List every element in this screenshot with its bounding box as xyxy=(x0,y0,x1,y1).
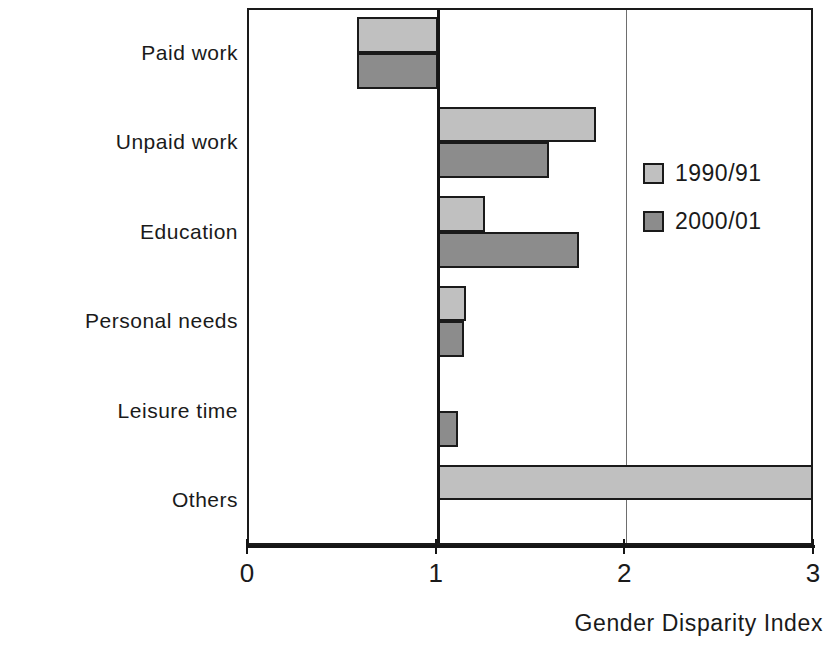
x-axis-tick xyxy=(623,539,625,554)
legend-swatch-icon xyxy=(643,211,664,232)
bar xyxy=(438,107,596,143)
x-axis-tick xyxy=(246,539,248,554)
bar xyxy=(438,321,464,357)
x-axis-line xyxy=(247,545,815,548)
bar xyxy=(357,53,438,89)
legend-item: 2000/01 xyxy=(643,208,762,234)
legend-label: 1990/91 xyxy=(675,162,762,185)
chart-legend: 1990/912000/01 xyxy=(643,160,762,256)
category-axis-labels: Paid workUnpaid workEducationPersonal ne… xyxy=(0,0,238,653)
bar xyxy=(438,232,580,268)
x-axis-tick-label: 0 xyxy=(240,560,254,586)
legend-label: 2000/01 xyxy=(675,210,762,233)
bar xyxy=(357,17,438,53)
bar xyxy=(438,142,549,178)
category-label: Others xyxy=(0,489,238,510)
category-label: Unpaid work xyxy=(0,131,238,152)
legend-item: 1990/91 xyxy=(643,160,762,186)
x-axis-tick xyxy=(812,539,814,554)
legend-swatch-icon xyxy=(643,163,664,184)
category-label: Leisure time xyxy=(0,400,238,421)
x-axis-tick-label: 3 xyxy=(806,560,820,586)
bar xyxy=(438,196,485,232)
category-label: Personal needs xyxy=(0,310,238,331)
x-axis-tick-label: 1 xyxy=(428,560,442,586)
x-axis-tick-label: 2 xyxy=(617,560,631,586)
x-axis-title: Gender Disparity Index xyxy=(0,612,823,635)
gridline xyxy=(626,10,627,543)
gender-disparity-index-bar-chart: Paid workUnpaid workEducationPersonal ne… xyxy=(0,0,829,653)
baseline-at-one xyxy=(437,10,440,543)
bar xyxy=(438,465,813,501)
category-label: Paid work xyxy=(0,42,238,63)
category-label: Education xyxy=(0,221,238,242)
bar xyxy=(438,411,459,447)
plot-area xyxy=(247,8,813,545)
bar xyxy=(438,286,466,322)
